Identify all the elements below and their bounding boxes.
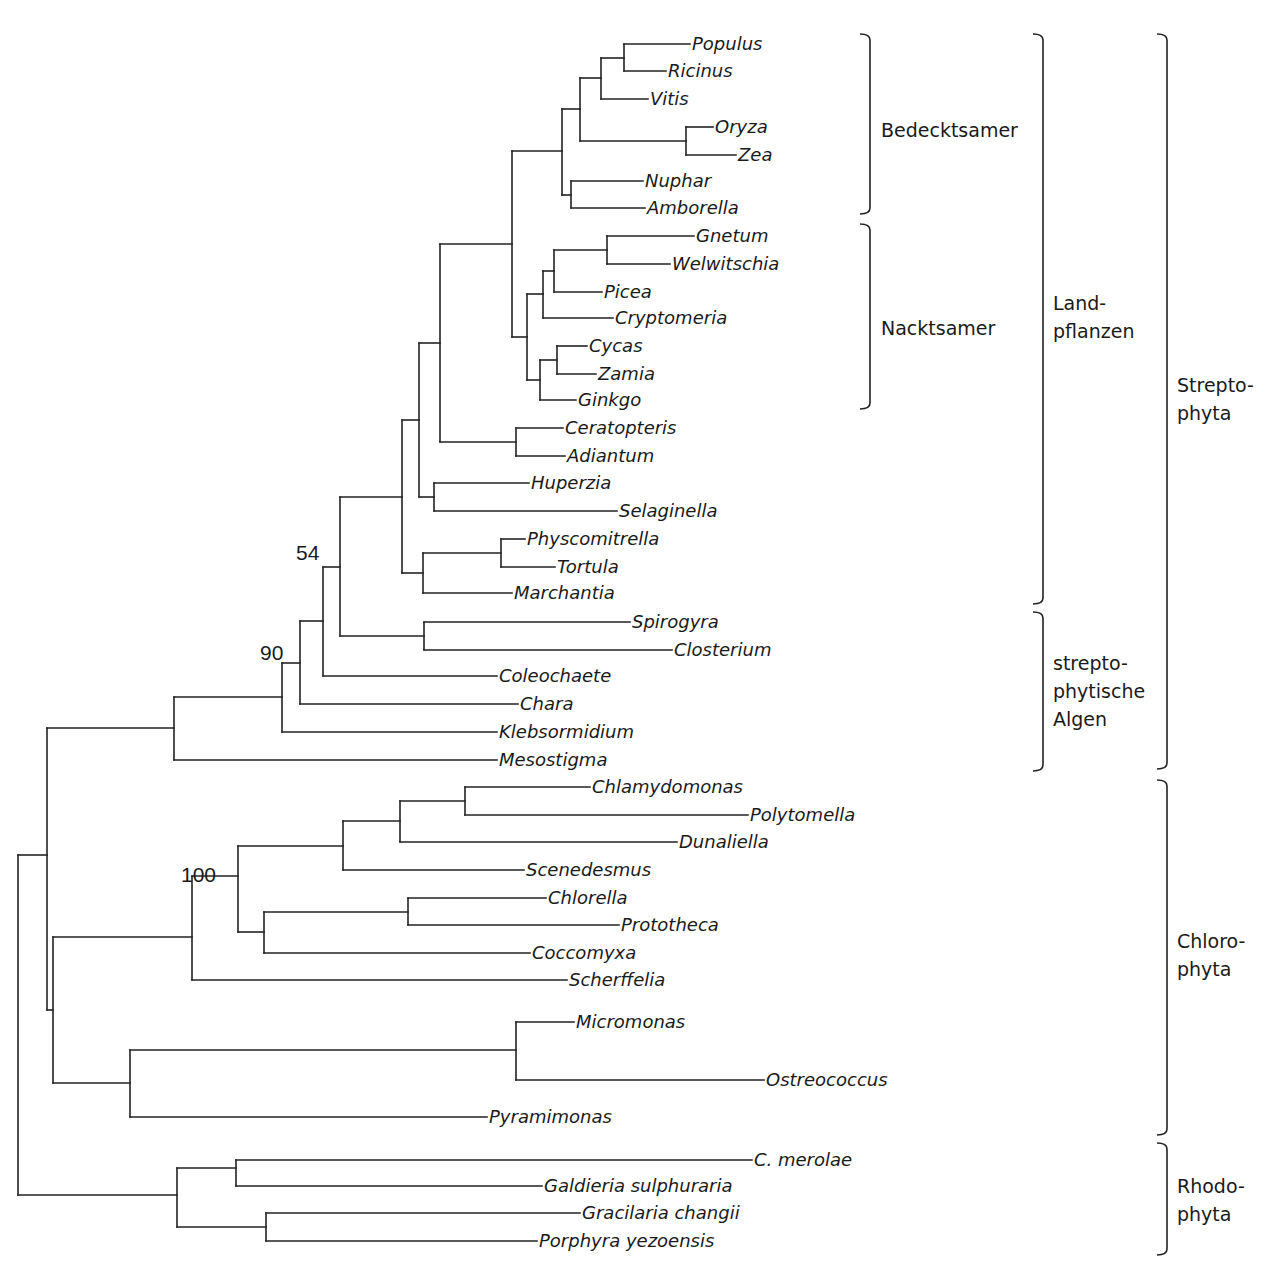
taxon-label: Gracilaria changii (582, 1202, 740, 1223)
taxon-label: Ricinus (668, 60, 733, 81)
clade-label: Strepto- (1177, 374, 1254, 396)
phylogenetic-tree: PopulusRicinusVitisOryzaZeaNupharAmborel… (0, 0, 1278, 1273)
clade-label: phyta (1177, 958, 1231, 980)
tree-nodes (18, 44, 686, 1241)
clade-label: phytische (1053, 680, 1145, 702)
taxon-label: Welwitschia (672, 253, 779, 274)
taxon-label: Coccomyxa (532, 942, 636, 963)
taxon-label: Spirogyra (632, 611, 719, 632)
bootstrap-support-values: 5490100 (181, 541, 320, 886)
taxon-label: Ceratopteris (565, 417, 676, 438)
clade-label: Nacktsamer (881, 317, 995, 339)
taxon-label: Selaginella (619, 500, 717, 521)
taxon-label: Porphyra yezoensis (539, 1230, 714, 1251)
support-value: 54 (296, 541, 320, 564)
taxon-label: Nuphar (645, 170, 713, 191)
taxon-label: Chara (520, 693, 573, 714)
taxon-label: Cycas (589, 335, 643, 356)
taxon-label: Zea (737, 144, 772, 165)
clade-brackets: BedecktsamerNacktsamerLand-pflanzenstrep… (860, 34, 1254, 1255)
taxon-label: Polytomella (750, 804, 855, 825)
clade-label: pflanzen (1053, 320, 1134, 342)
clade-bracket (1157, 34, 1167, 769)
clade-label: phyta (1177, 1203, 1231, 1225)
taxon-label: Coleochaete (499, 665, 611, 686)
taxon-label: Scherffelia (569, 969, 665, 990)
taxon-label: Closterium (674, 639, 771, 660)
taxon-label: Marchantia (514, 582, 615, 603)
taxon-label: Scenedesmus (526, 859, 651, 880)
taxon-label: Tortula (557, 556, 619, 577)
taxon-label: Dunaliella (679, 831, 769, 852)
clade-bracket (1033, 612, 1043, 771)
taxon-label: Chlorella (548, 887, 628, 908)
support-value: 90 (260, 641, 283, 664)
clade-bracket (860, 224, 870, 409)
support-value: 100 (181, 863, 216, 886)
taxon-label: Vitis (650, 88, 689, 109)
taxon-label: Amborella (646, 197, 739, 218)
clade-label: Land- (1053, 292, 1106, 314)
taxon-label: Huperzia (531, 472, 611, 493)
taxon-label: Ostreococcus (766, 1069, 888, 1090)
clade-label: Algen (1053, 708, 1107, 730)
taxon-label: Zamia (597, 363, 655, 384)
taxon-label: Ginkgo (578, 389, 641, 410)
taxon-label: Galdieria sulphuraria (544, 1175, 733, 1196)
taxon-label: Cryptomeria (615, 307, 727, 328)
taxon-label: Prototheca (621, 914, 719, 935)
clade-bracket (860, 34, 870, 214)
taxon-label: Pyramimonas (489, 1106, 612, 1127)
clade-label: Chloro- (1177, 930, 1245, 952)
taxon-label: C. merolae (754, 1149, 852, 1170)
taxon-label: Micromonas (576, 1011, 685, 1032)
taxon-label: Adiantum (566, 445, 654, 466)
clade-bracket (1157, 780, 1167, 1135)
taxon-label: Picea (604, 281, 652, 302)
taxon-label: Klebsormidium (499, 721, 634, 742)
taxon-label: Gnetum (696, 225, 768, 246)
taxon-label: Mesostigma (499, 749, 607, 770)
taxon-label: Chlamydomonas (592, 776, 743, 797)
clade-bracket (1033, 34, 1043, 604)
clade-label: Rhodo- (1177, 1175, 1245, 1197)
clade-bracket (1157, 1143, 1167, 1255)
clade-label: strepto- (1053, 652, 1128, 674)
taxon-label: Populus (692, 33, 763, 54)
taxon-label: Oryza (715, 116, 768, 137)
taxon-labels: PopulusRicinusVitisOryzaZeaNupharAmborel… (489, 33, 888, 1251)
taxon-label: Physcomitrella (527, 528, 659, 549)
clade-label: phyta (1177, 402, 1231, 424)
clade-label: Bedecktsamer (881, 119, 1018, 141)
